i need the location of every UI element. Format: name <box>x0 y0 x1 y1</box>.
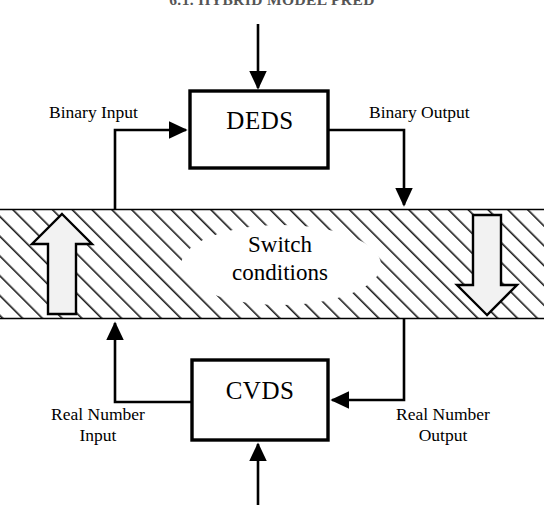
real-number-input-line1: Real Number <box>22 404 174 425</box>
deds-block-label: DEDS <box>192 108 328 134</box>
real-number-output-label: Real Number Output <box>367 404 519 446</box>
switch-conditions-label: Switch conditions <box>190 231 370 287</box>
switch-conditions-line1: Switch <box>190 231 370 259</box>
arrow-band-to-deds-left <box>115 130 186 209</box>
arrow-band-to-cvds-right <box>332 319 404 400</box>
binary-output-label: Binary Output <box>369 103 470 121</box>
real-number-input-line2: Input <box>22 425 174 446</box>
real-number-output-line1: Real Number <box>367 404 519 425</box>
diagram-page: 6.1. HYBRID MODEL PRED <box>0 0 544 527</box>
real-number-input-label: Real Number Input <box>22 404 174 446</box>
arrow-deds-to-band-right <box>328 130 404 205</box>
arrow-cvds-to-band-left <box>115 323 192 402</box>
cvds-block-label: CVDS <box>192 378 328 404</box>
switch-conditions-line2: conditions <box>190 259 370 287</box>
real-number-output-line2: Output <box>367 425 519 446</box>
binary-input-label: Binary Input <box>49 103 138 121</box>
